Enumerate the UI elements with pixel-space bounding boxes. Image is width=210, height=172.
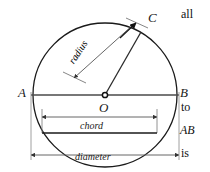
radius-line-OC bbox=[105, 32, 141, 95]
circle-geometry-figure: A B C O radius chord diameter all to AB … bbox=[0, 0, 210, 172]
chord-dimension-label: chord bbox=[80, 121, 103, 131]
label-B: B bbox=[180, 86, 188, 99]
diameter-dimension-label: diameter bbox=[75, 152, 111, 162]
text-fragment-is: is bbox=[181, 147, 189, 159]
text-fragment-ab: AB bbox=[180, 124, 195, 136]
label-O: O bbox=[99, 101, 108, 114]
text-fragment-to: to bbox=[181, 101, 190, 113]
label-C: C bbox=[148, 11, 157, 24]
circle-diagram-svg bbox=[0, 0, 210, 172]
radius-extension-tick-top bbox=[126, 18, 148, 28]
text-fragment-all: all bbox=[181, 8, 193, 20]
center-point-marker bbox=[102, 92, 107, 97]
label-A: A bbox=[18, 86, 26, 99]
